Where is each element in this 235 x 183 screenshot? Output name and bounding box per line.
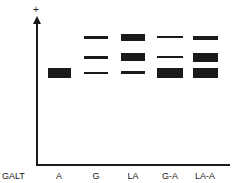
gel-band [84,56,108,59]
gel-band [193,36,218,40]
lane-label: LA-A [185,171,225,181]
lane-label: LA [113,171,153,181]
gel-band [121,34,145,41]
gel-band [48,68,71,78]
gel-band [193,53,218,62]
vertical-axis [36,22,38,165]
gel-band [84,72,108,74]
lane-label: G-A [150,171,190,181]
gel-band [84,36,108,39]
gel-band [121,53,145,61]
gel-band [157,36,183,38]
gel-band [193,68,218,78]
row-label: GALT [2,171,25,181]
lane-label: G [76,171,116,181]
gel-band [121,71,145,74]
lane-label: A [39,171,79,181]
baseline-axis [36,164,230,166]
gel-band [157,56,183,58]
gel-band [157,68,183,78]
positive-electrode-symbol: + [33,5,39,15]
